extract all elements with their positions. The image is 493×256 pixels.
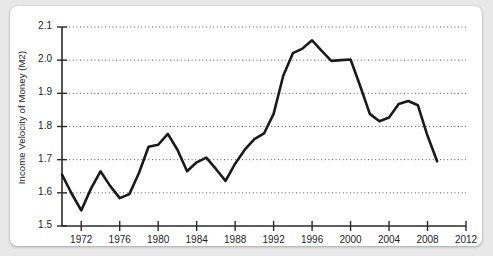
x-tick-label: 2004 <box>369 234 409 245</box>
x-tick-label: 2008 <box>408 234 448 245</box>
y-axis-title: Income Velocity of Money (M2) <box>16 18 27 218</box>
y-tick-label: 1.9 <box>26 86 52 97</box>
gridlines <box>62 27 466 193</box>
x-tick-label: 1980 <box>138 234 178 245</box>
x-tick-label: 1972 <box>61 234 101 245</box>
x-tick-label: 2012 <box>446 234 486 245</box>
y-tick-label: 2.1 <box>26 20 52 31</box>
y-tick-label: 1.8 <box>26 120 52 131</box>
y-tick-label: 2.0 <box>26 53 52 64</box>
x-tick-label: 1976 <box>100 234 140 245</box>
x-tick-label: 1992 <box>254 234 294 245</box>
x-tick-label: 1984 <box>177 234 217 245</box>
x-tick-label: 2000 <box>331 234 371 245</box>
x-tick-label: 1988 <box>215 234 255 245</box>
y-tick-label: 1.5 <box>26 219 52 230</box>
y-tick-label: 1.6 <box>26 186 52 197</box>
data-series-line <box>62 40 437 210</box>
x-tick-label: 1996 <box>292 234 332 245</box>
line-chart: Income Velocity of Money (M2) 1.51.61.71… <box>0 0 493 256</box>
y-tick-label: 1.7 <box>26 153 52 164</box>
plot-canvas <box>0 0 493 256</box>
